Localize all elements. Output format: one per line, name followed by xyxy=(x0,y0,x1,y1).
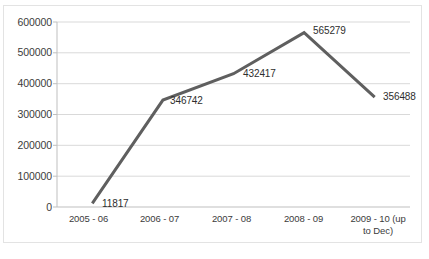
data-point-label-3: 565279 xyxy=(313,25,346,36)
x-tick-label-1: 2006 - 07 xyxy=(124,213,195,225)
data-series-line xyxy=(92,33,374,204)
x-tick-label-3: 2008 - 09 xyxy=(268,213,339,225)
gridlines xyxy=(57,22,410,176)
data-point-label-1: 346742 xyxy=(170,95,203,106)
x-tick-label-0-line-0: 2005 - 06 xyxy=(53,213,124,225)
x-tick-label-4: 2009 - 10 (up to Dec) xyxy=(339,213,417,237)
x-tick-label-3-line-0: 2008 - 09 xyxy=(268,213,339,225)
x-tick-label-2-line-0: 2007 - 08 xyxy=(196,213,267,225)
y-tick-marks xyxy=(53,22,57,207)
x-tick-label-4-line-0: 2009 - 10 (up xyxy=(339,213,417,225)
x-tick-label-4-line-1: to Dec) xyxy=(339,225,417,237)
x-tick-label-0: 2005 - 06 xyxy=(53,213,124,225)
data-point-label-2: 432417 xyxy=(243,68,276,79)
chart-figure: 600000 500000 400000 300000 200000 10000… xyxy=(0,0,429,259)
data-point-label-4: 356488 xyxy=(383,91,416,102)
x-tick-label-1-line-0: 2006 - 07 xyxy=(124,213,195,225)
data-point-label-0: 11817 xyxy=(102,198,129,209)
x-tick-label-2: 2007 - 08 xyxy=(196,213,267,225)
